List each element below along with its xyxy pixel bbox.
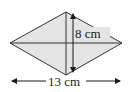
horizontal-diagonal-label: 13 cm — [48, 74, 80, 89]
vertical-diagonal-label: 8 cm — [75, 26, 101, 41]
rhombus-diagram: 8 cm 13 cm — [0, 0, 132, 92]
